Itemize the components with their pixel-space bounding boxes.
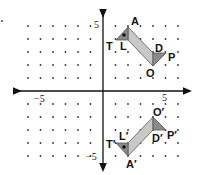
grid-dot xyxy=(177,103,179,105)
triangle-TAL xyxy=(116,27,128,40)
grid-dot xyxy=(27,142,29,144)
grid-dot xyxy=(27,25,29,27)
grid-dot xyxy=(165,38,167,40)
stray-dot xyxy=(1,20,3,22)
grid-dot xyxy=(77,155,79,157)
grid-dot xyxy=(40,155,42,157)
grid-dot xyxy=(65,38,67,40)
grid-dot xyxy=(27,77,29,79)
grid-dot xyxy=(65,64,67,66)
grid-dot xyxy=(90,142,92,144)
grid-dot xyxy=(52,129,54,131)
label-D-prime: D′ xyxy=(152,132,163,144)
grid-dot xyxy=(77,51,79,53)
grid-dot xyxy=(165,64,167,66)
grid-dot xyxy=(165,25,167,27)
x-axis-neg-label: −5 xyxy=(34,93,45,104)
grid-dot xyxy=(177,129,179,131)
grid-dot xyxy=(90,103,92,105)
grid-dot xyxy=(115,129,117,131)
label-A-prime: A′ xyxy=(126,158,137,170)
grid-dot xyxy=(152,155,154,157)
label-O-prime: O′ xyxy=(153,106,165,118)
grid-dot xyxy=(65,142,67,144)
grid-dot xyxy=(140,103,142,105)
grid-dot xyxy=(115,77,117,79)
grid-dot xyxy=(177,77,179,79)
y-axis-neg-label: −5 xyxy=(86,151,97,162)
x-axis-pos-label: 5 xyxy=(162,92,167,103)
label-L-prime: L′ xyxy=(119,130,129,142)
grid-dot xyxy=(127,103,129,105)
grid-dot xyxy=(177,38,179,40)
grid-dot xyxy=(65,129,67,131)
grid-dot xyxy=(65,116,67,118)
grid-dot xyxy=(40,38,42,40)
y-axis-pos-label: 5 xyxy=(94,19,99,30)
label-L: L xyxy=(120,40,127,52)
grid-dot xyxy=(27,116,29,118)
grid-dot xyxy=(115,64,117,66)
grid-dot xyxy=(52,38,54,40)
grid-dot xyxy=(27,155,29,157)
grid-dot xyxy=(90,51,92,53)
grid-dot xyxy=(90,25,92,27)
grid-dot xyxy=(52,25,54,27)
grid-dot xyxy=(65,77,67,79)
grid-dot xyxy=(40,77,42,79)
grid-dot xyxy=(77,103,79,105)
coordinate-plane-diagram: 5 −5 5 −5 A T L D P O O′ T′ L′ D′ P′ A′ xyxy=(0,0,200,175)
image-figure: O′ T′ L′ D′ P′ A′ xyxy=(106,106,177,170)
grid-dot xyxy=(90,116,92,118)
grid-dot xyxy=(115,116,117,118)
grid-dot xyxy=(140,25,142,27)
grid-dot xyxy=(177,51,179,53)
grid-dot xyxy=(65,103,67,105)
grid-dot xyxy=(77,64,79,66)
grid-dot xyxy=(90,38,92,40)
grid-dot xyxy=(165,142,167,144)
grid-dot xyxy=(40,129,42,131)
grid-dot xyxy=(40,64,42,66)
grid-dot xyxy=(65,25,67,27)
grid-dot xyxy=(27,64,29,66)
grid-dot xyxy=(77,38,79,40)
grid-dot xyxy=(90,129,92,131)
original-figure: A T L D P O xyxy=(106,15,175,79)
label-O: O xyxy=(146,67,155,79)
grid-dot xyxy=(127,51,129,53)
grid-dot xyxy=(115,155,117,157)
grid-dot xyxy=(165,155,167,157)
triangle-DPO xyxy=(153,53,166,66)
grid-dot xyxy=(90,77,92,79)
label-P-prime: P′ xyxy=(167,129,177,141)
grid-dot xyxy=(152,25,154,27)
grid-dot xyxy=(140,155,142,157)
grid-dot xyxy=(27,51,29,53)
grid-dot xyxy=(52,116,54,118)
grid-dot xyxy=(52,103,54,105)
label-T: T xyxy=(106,40,113,52)
grid-dot xyxy=(140,77,142,79)
grid-dot xyxy=(127,64,129,66)
grid-dot xyxy=(177,64,179,66)
label-A: A xyxy=(131,15,139,27)
grid-dot xyxy=(140,64,142,66)
grid-dot xyxy=(77,25,79,27)
label-D: D xyxy=(155,42,163,54)
grid-dot xyxy=(52,77,54,79)
grid-dot xyxy=(177,116,179,118)
grid-dot xyxy=(40,51,42,53)
grid-dot xyxy=(40,142,42,144)
grid-dot xyxy=(165,77,167,79)
label-T-prime: T′ xyxy=(106,138,116,150)
grid-dot xyxy=(115,25,117,27)
grid-dot xyxy=(65,155,67,157)
triangle-T'A'L' xyxy=(116,143,128,156)
grid-dot xyxy=(177,155,179,157)
point-L-dot xyxy=(122,33,126,37)
grid-dot xyxy=(115,51,117,53)
grid-dot xyxy=(27,103,29,105)
grid-dot xyxy=(127,116,129,118)
grid-dot xyxy=(27,129,29,131)
